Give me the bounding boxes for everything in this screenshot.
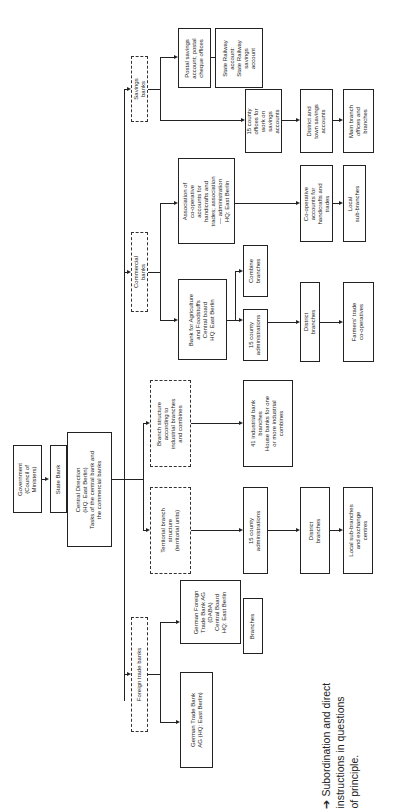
node-label: German Trade Bank AG (HQ: East Berlin) (190, 692, 204, 748)
node-label: District branches (308, 518, 322, 543)
connector (160, 622, 161, 722)
connector (148, 674, 160, 675)
node-savings-banks: Savings banks (131, 56, 148, 122)
node-label: Central Direction (HQ: East Berlin) Task… (76, 450, 104, 528)
connector (235, 271, 236, 321)
node-state-railway: State Railway account: State Railway sav… (215, 28, 263, 88)
node-central-direction: Central Direction (HQ: East Berlin) Task… (67, 432, 112, 547)
node-label: Association of co-operative accounts for… (182, 176, 231, 226)
connector (191, 423, 240, 424)
connector (282, 120, 297, 121)
connector (160, 320, 175, 321)
legend: ➔ Subordination and direct instructions … (300, 620, 380, 800)
node-district-branches-agri: District branches (300, 282, 320, 362)
connector (148, 272, 160, 273)
node-combine-branches: Combine branches (243, 245, 268, 297)
node-state-bank: State Bank (50, 445, 67, 513)
node-bank-agriculture: Bank for Agriculture and Foodstuffs Cent… (178, 279, 227, 360)
node-county-admin-agri: 15 county administrations (243, 309, 268, 361)
connector (191, 530, 240, 531)
connector (160, 203, 161, 320)
connector (268, 322, 297, 323)
node-label: 15 county offices for work on savings ac… (246, 108, 281, 134)
connector (160, 722, 177, 723)
node-district-branches-terr: District branches (300, 487, 330, 574)
node-label: State Railway account: State Railway sav… (222, 40, 257, 77)
connector (227, 320, 235, 321)
node-label: Local sub-branches and exchange centres (348, 504, 369, 556)
node-postal-savings: Postal savings account; postal cheque of… (178, 28, 211, 88)
node-industrial-bank-branches: 41 industrial bank branches House banks … (243, 380, 293, 467)
connector (112, 479, 124, 480)
node-label: 41 industrial bank branches House banks … (251, 396, 286, 451)
node-label: German Foreign Trade Bank AG (DABA) Cent… (193, 590, 228, 634)
node-local-sub-branches-coop: Local sub-branches (343, 165, 366, 242)
node-label: Foreign trade banks (136, 648, 143, 701)
connector (160, 203, 175, 204)
legend-text: ➔ Subordination and direct instructions … (319, 634, 361, 809)
arrow-head-icon (45, 477, 49, 481)
connector (148, 89, 160, 90)
node-association-coop: Association of co-operative accounts for… (178, 158, 235, 244)
node-territorial-branch: Territorial branch structure (territoria… (150, 487, 191, 574)
node-label: Bank for Agriculture and Foodstuffs Cent… (189, 293, 217, 345)
node-german-foreign-trade-bank: German Foreign Trade Bank AG (DABA) Cent… (180, 580, 241, 644)
node-label: Co-operative accounts for handicrafts an… (303, 183, 331, 224)
node-label: Main branch offices and branches (348, 104, 369, 137)
node-coop-accounts: Co-operative accounts for handicrafts an… (300, 165, 333, 242)
node-label: District and town savings accounts (306, 104, 327, 139)
node-label: Branch structure according to industrial… (157, 398, 185, 448)
node-label: District branches (303, 310, 317, 335)
node-label: Branches (250, 613, 257, 638)
node-county-offices-savings: 15 county offices for work on savings ac… (245, 89, 282, 153)
connector (235, 203, 297, 204)
connector (268, 530, 297, 531)
node-label: Postal savings account; postal cheque of… (184, 38, 205, 78)
connector (160, 120, 242, 121)
node-branch-structure-industrial: Branch structure according to industrial… (150, 380, 191, 467)
node-commercial-banks: Commercial banks (131, 232, 148, 312)
node-label: 15 county administrations (249, 315, 263, 355)
connector (160, 57, 161, 120)
node-government: Government (Council of Ministers) (13, 445, 42, 513)
node-label: Local sub-branches (348, 185, 362, 221)
node-label: Government (Council of Ministers) (17, 462, 38, 495)
trunk-line (124, 89, 125, 701)
node-label: 15 county administrations (249, 510, 263, 550)
connector (143, 423, 144, 531)
node-farmers-trade: Farmers' trade co-operatives (343, 282, 374, 362)
node-label: Farmers' trade co-operatives (352, 303, 366, 342)
node-main-branch-offices: Main branch offices and branches (343, 89, 374, 153)
node-district-town-savings: District and town savings accounts (300, 89, 333, 153)
connector (320, 322, 340, 323)
node-label: Territorial branch structure (territoria… (160, 508, 181, 553)
connector (124, 479, 143, 480)
node-local-sub-branches-exchange: Local sub-branches and exchange centres (343, 487, 373, 574)
node-foreign-trade-banks: Foreign trade banks (131, 617, 148, 732)
node-german-trade-bank: German Trade Bank AG (HQ: East Berlin) (180, 672, 213, 768)
node-label: Commercial banks (133, 256, 147, 288)
node-label: Savings banks (133, 78, 147, 99)
node-branches-daba: Branches (243, 598, 263, 654)
connector (160, 622, 177, 623)
connector (160, 57, 175, 58)
node-label: State Bank (55, 464, 62, 493)
node-label: Combine branches (249, 259, 263, 284)
node-county-admin-terr: 15 county administrations (243, 487, 268, 574)
